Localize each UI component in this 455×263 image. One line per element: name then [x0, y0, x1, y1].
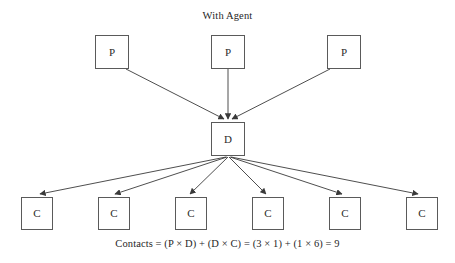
figure-caption-formula: Contacts = (P × D) + (D × C) = (3 × 1) +…	[0, 238, 455, 249]
node-producer-1[interactable]: P	[95, 35, 129, 69]
figure-title: With Agent	[0, 10, 455, 21]
edges-producers-to-agent	[126, 69, 330, 119]
node-producer-2[interactable]: P	[211, 35, 245, 69]
node-producer-2-label: P	[225, 47, 231, 58]
node-consumer-5-label: C	[341, 208, 348, 219]
edge-p3-to-d	[232, 69, 330, 119]
edges-agent-to-consumers	[40, 157, 418, 194]
node-consumer-4[interactable]: C	[252, 197, 284, 230]
node-consumer-1-label: C	[33, 208, 40, 219]
node-consumer-2[interactable]: C	[98, 197, 130, 230]
node-consumer-4-label: C	[264, 208, 271, 219]
node-consumer-6[interactable]: C	[406, 197, 438, 230]
figure-canvas: With Agent P P P D C	[0, 0, 455, 263]
node-agent-d-label: D	[224, 134, 232, 145]
node-consumer-3-label: C	[187, 208, 194, 219]
node-consumer-6-label: C	[418, 208, 425, 219]
node-producer-3[interactable]: P	[327, 35, 361, 69]
node-agent-d[interactable]: D	[211, 122, 245, 156]
node-consumer-5[interactable]: C	[329, 197, 361, 230]
node-producer-1-label: P	[109, 47, 115, 58]
node-consumer-2-label: C	[110, 208, 117, 219]
node-producer-3-label: P	[341, 47, 347, 58]
node-consumer-1[interactable]: C	[21, 197, 53, 230]
node-consumer-3[interactable]: C	[175, 197, 207, 230]
edge-p1-to-d	[126, 69, 224, 119]
